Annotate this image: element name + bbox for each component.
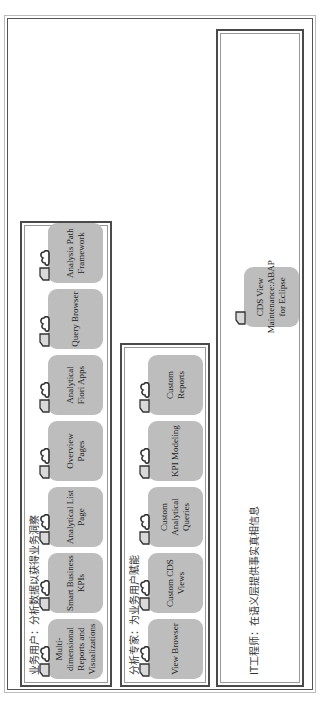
tile-multi-dimensional-reports-and-visualizations: Multi-dimensional Reports and Visualizat… (48, 619, 103, 679)
group-it-engineers: IT工程师：在语义层提供事实真相信息 (216, 29, 304, 687)
tag-icon (232, 311, 250, 325)
tag-icon (136, 399, 154, 413)
tag-icon (36, 399, 54, 413)
tile-smart-business-kpis: Smart Business KPIs (48, 553, 103, 613)
tile-query-browser: Query Browser (48, 289, 103, 349)
tag-icon (36, 267, 54, 281)
tag-icon (36, 597, 54, 611)
tile-overview-pages: Overview Pages (48, 421, 103, 481)
tile-label: Custom Analytical Queries (159, 489, 192, 545)
tag-icon (36, 333, 54, 347)
cloud-icon (36, 646, 54, 662)
tag-icon (36, 663, 54, 677)
tile-analytical-list-page: Analytical List Page (48, 487, 103, 547)
tag-icon (136, 531, 154, 545)
tag-icon (136, 597, 154, 611)
tile-label: CDS View Maintenance:ABAP for Eclipse (255, 261, 288, 334)
tile-label: Custom Reports (165, 357, 187, 413)
tile-custom-cds-views: Custom CDS Views (148, 553, 203, 613)
cloud-icon (136, 448, 154, 464)
group-title-it: IT工程师：在语义层提供事实真相信息 (246, 506, 261, 675)
tile-label: Custom CDS Views (165, 555, 187, 611)
tile-label: Query Browser (70, 291, 81, 346)
tile-label: Smart Business KPIs (65, 555, 87, 611)
cloud-icon (36, 448, 54, 464)
tile-analysis-path-framework: Analysis Path Framework (48, 223, 103, 283)
cloud-icon (136, 646, 154, 662)
tile-label: Overview Pages (65, 423, 87, 479)
cloud-icon (136, 382, 154, 398)
tile-view-browser: View Browser (148, 619, 203, 679)
rotated-diagram: 业务用户：分析数据以获得业务洞察 分析专家：为业务用户赋能 IT工程师：在语义层… (0, 0, 327, 709)
tile-cds-view-maintenance-abap-for-eclipse: CDS View Maintenance:ABAP for Eclipse (244, 267, 299, 327)
tag-icon (136, 663, 154, 677)
tag-icon (36, 531, 54, 545)
cloud-icon (136, 580, 154, 596)
tile-kpi-modeling: KPI Modeling (148, 421, 203, 481)
tag-icon (136, 465, 154, 479)
tile-custom-analytical-queries: Custom Analytical Queries (148, 487, 203, 547)
cloud-icon (36, 250, 54, 266)
cloud-icon (36, 514, 54, 530)
cloud-icon (136, 514, 154, 530)
tile-label: Analytical Fiori Apps (65, 357, 87, 413)
cloud-icon (36, 382, 54, 398)
tile-label: Analysis Path Framework (65, 225, 87, 281)
tile-label: View Browser (170, 623, 181, 675)
tag-icon (36, 465, 54, 479)
cloud-icon (36, 316, 54, 332)
tile-label: KPI Modeling (170, 425, 181, 477)
tile-analytical-fiori-apps: Analytical Fiori Apps (48, 355, 103, 415)
tile-label: Multi-dimensional Reports and Visualizat… (54, 621, 98, 677)
tile-label: Analytical List Page (65, 489, 87, 545)
cloud-icon (36, 580, 54, 596)
tile-custom-reports: Custom Reports (148, 355, 203, 415)
